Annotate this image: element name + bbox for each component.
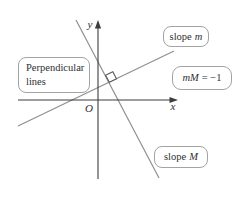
perpendicular-lines-figure: x y O Perpendicular lines slope m mM = −… [0, 0, 239, 199]
x-axis-label: x [170, 100, 176, 112]
equation-rhs: = −1 [202, 71, 222, 85]
slope-m-symbol: m [195, 30, 203, 44]
slope-M-callout: slope M [154, 146, 208, 168]
slope-M-symbol: M [189, 150, 198, 164]
y-axis-label: y [87, 18, 93, 30]
equation-callout: mM = −1 [172, 66, 232, 90]
slope-M-text: slope [164, 150, 186, 164]
y-axis-arrow-icon [95, 20, 101, 29]
slope-m-text: slope [170, 30, 192, 44]
equation-lhs: mM [182, 71, 198, 85]
slope-m-callout: slope m [163, 26, 209, 47]
perpendicular-lines-text-line1: Perpendicular [26, 61, 87, 75]
perpendicular-lines-text-line2: lines [26, 75, 87, 89]
perpendicular-lines-callout: Perpendicular lines [18, 57, 90, 93]
origin-label: O [85, 102, 93, 114]
line-slope-M [76, 20, 159, 178]
